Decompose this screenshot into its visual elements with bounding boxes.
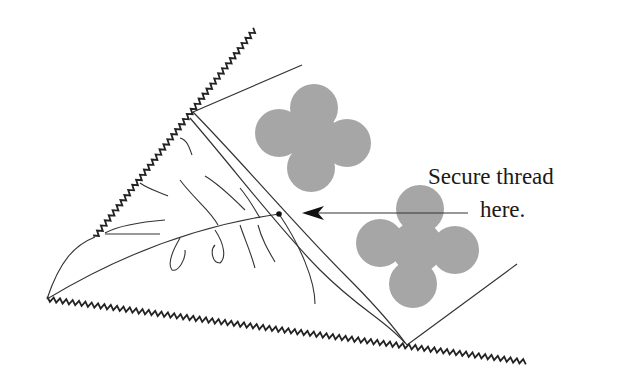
annotation-line-1: Secure thread (428, 165, 554, 188)
pinked-edge-lower (47, 297, 526, 365)
annotation-line-2: here. (480, 198, 525, 221)
leaf-shape (47, 138, 315, 304)
thread-anchor-dot (276, 211, 282, 217)
diagram-canvas (0, 0, 622, 391)
flower-appliqué-2 (356, 185, 479, 308)
fabric-fold (190, 65, 517, 345)
pinked-edge-upper (93, 28, 255, 236)
flower-appliqué-1 (255, 84, 371, 192)
